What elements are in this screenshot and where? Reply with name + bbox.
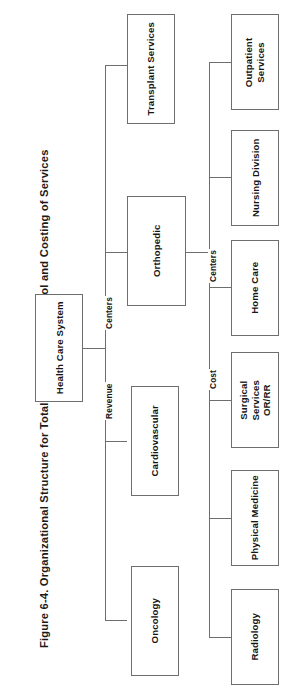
connector-branch-home-care — [209, 287, 231, 288]
node-label: Health Care System — [53, 302, 65, 395]
connector-branch-physical-medicine — [209, 518, 231, 519]
node-label: Cardiovascular — [149, 405, 161, 476]
node-home-care[interactable]: Home Care — [231, 240, 279, 336]
connector-branch-radiology — [209, 637, 231, 638]
connector-branch-orthopedic — [105, 252, 127, 253]
node-transplant-services[interactable]: Transplant Services — [127, 14, 175, 124]
connector-branch-outpatient — [209, 62, 231, 63]
node-orthopedic[interactable]: Orthopedic — [127, 196, 186, 306]
node-oncology[interactable]: Oncology — [131, 566, 179, 676]
edge-label-centers-left: Centers — [104, 296, 114, 330]
node-label: Transplant Services — [145, 22, 157, 116]
node-label: Outpatient Services — [244, 37, 267, 86]
edge-label-cost: Cost — [208, 369, 218, 390]
connector-branch-transplant — [105, 65, 127, 66]
node-nursing-division[interactable]: Nursing Division — [231, 130, 279, 226]
connector-branch-nursing — [209, 177, 231, 178]
node-outpatient-services[interactable]: Outpatient Services — [231, 14, 279, 110]
node-label: Orthopedic — [151, 225, 163, 278]
connector-root-to-trunk — [83, 348, 106, 349]
figure-container: Figure 6-4. Organizational Structure for… — [0, 0, 295, 694]
node-physical-medicine[interactable]: Physical Medicine — [231, 470, 279, 566]
node-label: Surgical Services OR/RR — [238, 377, 273, 423]
node-surgical-services[interactable]: Surgical Services OR/RR — [231, 352, 279, 448]
node-health-care-system[interactable]: Health Care System — [35, 294, 83, 402]
node-label: Home Care — [249, 262, 261, 314]
node-cardiovascular[interactable]: Cardiovascular — [131, 386, 179, 496]
connector-branch-cardiovascular — [105, 441, 127, 442]
edge-label-revenue: Revenue — [104, 382, 114, 420]
connector-right-trunk — [209, 62, 210, 637]
node-label: Nursing Division — [249, 139, 261, 218]
node-radiology[interactable]: Radiology — [231, 589, 279, 685]
connector-branch-surgical — [209, 400, 231, 401]
node-label: Radiology — [249, 613, 261, 661]
connector-branch-oncology — [105, 620, 127, 621]
node-label: Oncology — [149, 598, 161, 643]
node-label: Physical Medicine — [249, 475, 261, 560]
connector-orthopedic-to-right-trunk — [186, 252, 210, 253]
connector-left-trunk — [105, 65, 106, 620]
edge-label-centers-right: Centers — [208, 249, 218, 283]
